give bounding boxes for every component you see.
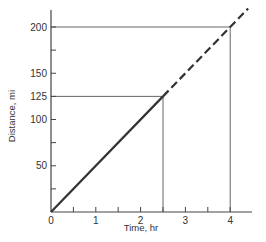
y-tick-label: 200	[30, 22, 47, 33]
extrapolated-line	[163, 9, 248, 97]
x-tick-label: 4	[227, 215, 233, 226]
y-tick-label: 100	[30, 114, 47, 125]
x-axis-title: Time, hr	[124, 222, 158, 233]
x-tick-label: 3	[183, 215, 189, 226]
y-tick-label: 125	[30, 91, 47, 102]
y-tick-label: 150	[30, 68, 47, 79]
distance-time-chart: 0123450100125150200 Time, hr Distance, m…	[0, 0, 266, 242]
x-tick-label: 0	[48, 215, 54, 226]
x-tick-label: 1	[93, 215, 99, 226]
distance-line	[51, 96, 163, 212]
tick-labels: 0123450100125150200	[30, 22, 233, 227]
y-axis-title: Distance, mi	[6, 90, 17, 142]
data-series	[51, 9, 248, 213]
y-tick-label: 50	[36, 160, 48, 171]
